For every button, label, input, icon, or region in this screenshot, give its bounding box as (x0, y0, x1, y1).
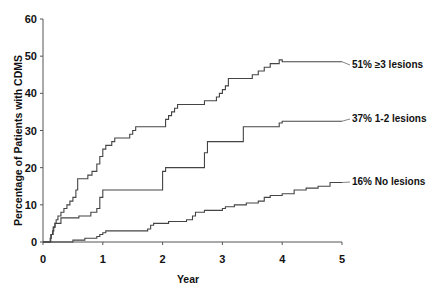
series-label-leader (342, 119, 350, 121)
x-axis: 012345 (40, 242, 345, 265)
series-label: 16% No lesions (352, 176, 426, 187)
series-group: 51% ≥3 lesions37% 1-2 lesions16% No lesi… (43, 59, 427, 242)
series-line (43, 121, 342, 242)
y-tick-label: 0 (31, 236, 37, 248)
series-label-leader (342, 182, 350, 183)
y-tick-label: 40 (25, 87, 37, 99)
y-tick-label: 30 (25, 125, 37, 137)
series-1: 51% ≥3 lesions (43, 59, 424, 242)
x-tick-label: 1 (100, 253, 106, 265)
y-axis: 0102030405060 (25, 13, 43, 248)
series-line (43, 183, 342, 242)
y-tick-label: 10 (25, 199, 37, 211)
x-tick-label: 5 (339, 253, 345, 265)
series-3: 16% No lesions (43, 176, 426, 242)
x-tick-label: 4 (279, 253, 286, 265)
series-label-leader (342, 62, 350, 65)
x-tick-label: 2 (160, 253, 166, 265)
series-label: 37% 1-2 lesions (352, 113, 427, 124)
x-axis-title: Year (177, 273, 199, 285)
series-line (43, 60, 342, 242)
x-tick-label: 0 (40, 253, 46, 265)
y-axis-title: Percentage of Patients with CDMS (12, 55, 24, 226)
y-ticks: 0102030405060 (25, 13, 43, 248)
y-tick-label: 50 (25, 50, 37, 62)
x-ticks: 012345 (40, 242, 345, 265)
y-tick-label: 60 (25, 13, 37, 25)
y-tick-label: 20 (25, 162, 37, 174)
series-label: 51% ≥3 lesions (352, 59, 424, 70)
chart: 0102030405060 012345 Percentage of Patie… (0, 0, 431, 297)
x-tick-label: 3 (219, 253, 225, 265)
